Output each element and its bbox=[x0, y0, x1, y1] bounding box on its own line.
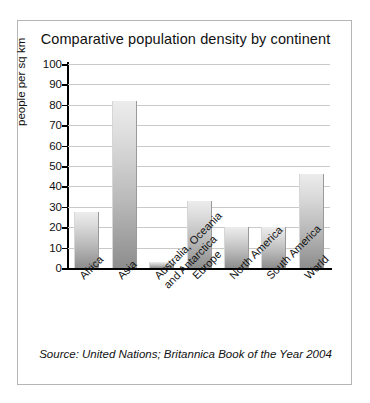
y-axis-tick-label: 60 bbox=[22, 140, 62, 152]
y-axis-tick-labels: 1009080706050403020100 bbox=[18, 21, 62, 384]
y-axis-tick-label: 50 bbox=[22, 160, 62, 172]
y-axis-tick-label: 90 bbox=[22, 78, 62, 90]
source-note: Source: United Nations; Britannica Book … bbox=[18, 348, 353, 360]
y-axis-tick-label: 70 bbox=[22, 119, 62, 131]
y-axis-tick-label: 10 bbox=[22, 242, 62, 254]
y-axis-tick-label: 20 bbox=[22, 221, 62, 233]
y-axis-tick bbox=[62, 248, 68, 250]
chart-figure: Comparative population density by contin… bbox=[17, 20, 352, 385]
y-axis-tick-label: 80 bbox=[22, 99, 62, 111]
bar bbox=[112, 101, 137, 268]
y-axis-tick bbox=[62, 125, 68, 127]
y-axis-tick bbox=[62, 207, 68, 209]
y-axis-tick bbox=[62, 64, 68, 66]
y-axis-tick-label: 100 bbox=[22, 58, 62, 70]
y-axis-tick bbox=[62, 84, 68, 86]
y-axis-tick-label: 0 bbox=[22, 262, 62, 274]
y-axis-tick-label: 30 bbox=[22, 201, 62, 213]
y-axis-tick bbox=[62, 227, 68, 229]
y-axis-tick bbox=[62, 186, 68, 188]
y-axis-tick bbox=[62, 268, 68, 270]
y-axis-tick bbox=[62, 166, 68, 168]
y-axis-tick bbox=[62, 146, 68, 148]
y-axis-tick-label: 40 bbox=[22, 180, 62, 192]
chart-title: Comparative population density by contin… bbox=[18, 31, 353, 47]
y-axis-tick bbox=[62, 105, 68, 107]
